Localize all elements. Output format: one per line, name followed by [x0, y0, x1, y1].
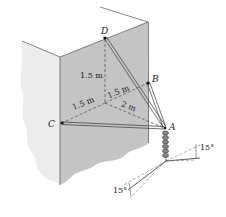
label-D: D — [100, 26, 108, 36]
point-A — [164, 127, 167, 130]
statics-figure: D B C A 1.5 m 1.5 m 1.5 m 2 m 15° 15° — [0, 0, 226, 217]
dim-label-vertical-D: 1.5 m — [80, 71, 103, 80]
label-C: C — [48, 119, 55, 129]
angle-label-right: 15° — [200, 143, 214, 152]
point-B — [146, 81, 149, 84]
force-ref-left-dashed — [122, 161, 166, 186]
label-B: B — [151, 74, 159, 84]
label-A: A — [168, 122, 176, 132]
force-line-left — [128, 161, 166, 190]
spring-coil — [163, 131, 169, 158]
cable-AB — [147, 82, 166, 127]
point-C — [60, 121, 63, 124]
wall-back-edge — [100, 7, 148, 22]
angle-label-left: 15° — [113, 186, 127, 195]
point-D — [103, 36, 106, 39]
force-ref-left-dashed-2 — [130, 161, 166, 198]
wall-side-face — [21, 41, 60, 185]
